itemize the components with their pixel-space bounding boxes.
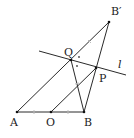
angle-dot-upper <box>78 56 80 58</box>
label-p: P <box>99 73 106 84</box>
label-a: A <box>10 117 18 128</box>
geometry-diagram <box>0 0 134 138</box>
tick-qb <box>75 83 79 84</box>
point-b <box>83 111 86 114</box>
label-b: B <box>84 117 92 128</box>
segment-qb <box>71 60 84 112</box>
point-o <box>50 111 53 114</box>
point-p <box>95 67 98 70</box>
segment-op <box>51 68 96 112</box>
point-b-prime <box>108 21 111 24</box>
label-b-prime: B′ <box>111 6 122 17</box>
label-o: O <box>46 117 55 128</box>
point-a <box>16 111 19 114</box>
point-q <box>70 59 73 62</box>
line-l <box>39 51 126 75</box>
label-line-l: l <box>118 59 122 70</box>
label-q: Q <box>64 47 73 58</box>
angle-dot-lower <box>76 65 78 67</box>
